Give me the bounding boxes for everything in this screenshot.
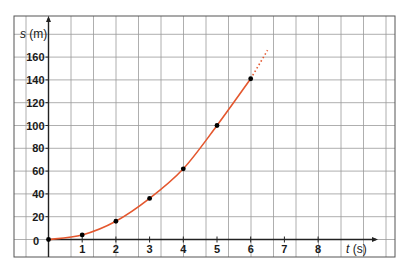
curve-extrapolation [251, 50, 268, 79]
x-tick-label: 6 [248, 243, 254, 255]
x-tick-label: 7 [281, 243, 287, 255]
x-tick-label: 5 [214, 243, 220, 255]
x-tick-label: 4 [180, 243, 187, 255]
data-point [114, 219, 119, 224]
x-tick-label: 3 [147, 243, 153, 255]
y-tick-label: 100 [26, 120, 44, 132]
data-point [181, 166, 186, 171]
data-point [215, 123, 220, 128]
data-point [147, 196, 152, 201]
data-point [80, 233, 85, 238]
x-axis-arrow-icon [372, 237, 378, 242]
y-axis-label: s (m) [20, 27, 47, 41]
axes [46, 16, 378, 257]
x-axis-label: t (s) [346, 242, 367, 256]
y-tick-label: 160 [26, 51, 44, 63]
y-tick-label: 40 [32, 188, 44, 200]
distance-time-chart: 1234567820406080100120140160 s (m) t (s)… [0, 0, 411, 270]
origin-label: 0 [33, 235, 39, 247]
y-tick-label: 80 [32, 142, 44, 154]
y-tick-label: 120 [26, 97, 44, 109]
data-point [46, 237, 51, 242]
data-curve [49, 50, 268, 239]
x-tick-label: 1 [79, 243, 85, 255]
x-tick-label: 8 [315, 243, 321, 255]
data-point [248, 76, 253, 81]
y-tick-label: 140 [26, 74, 44, 86]
y-tick-label: 20 [32, 211, 44, 223]
tick-labels: 1234567820406080100120140160 [26, 51, 321, 255]
x-tick-label: 2 [113, 243, 119, 255]
y-tick-label: 60 [32, 165, 44, 177]
grid-lines [14, 16, 395, 257]
y-axis-arrow-icon [46, 16, 51, 22]
